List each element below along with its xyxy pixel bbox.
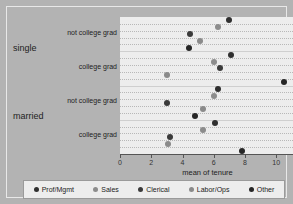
gridline	[120, 44, 293, 45]
data-point	[211, 59, 217, 65]
x-axis-tick-label: 8	[243, 159, 247, 166]
gridline	[120, 133, 293, 134]
data-point	[167, 134, 173, 140]
data-point	[281, 79, 287, 85]
data-point	[215, 24, 221, 30]
gridline	[120, 72, 293, 73]
data-point	[226, 17, 232, 23]
x-axis-tick-label: 10	[272, 159, 280, 166]
legend-item[interactable]: Prof/Mgmt	[34, 186, 74, 193]
graph-region: single married not college grad college …	[6, 6, 287, 198]
gridline	[120, 127, 293, 128]
data-point	[200, 127, 206, 133]
data-point	[200, 106, 206, 112]
legend-item[interactable]: Labor/Ops	[189, 186, 230, 193]
legend-item-label: Other	[257, 186, 275, 193]
y-category-label-married-notcollegegrad: not college grad	[67, 97, 117, 104]
data-point	[164, 100, 170, 106]
data-point	[197, 38, 203, 44]
legend-marker-icon	[34, 187, 39, 192]
y-group-label-single: single	[13, 43, 37, 53]
gridline	[120, 31, 293, 32]
data-point	[212, 120, 218, 126]
gridline	[120, 58, 293, 59]
x-axis-title: mean of tenure	[120, 168, 293, 177]
data-point	[215, 86, 221, 92]
data-point	[211, 93, 217, 99]
data-point	[217, 65, 223, 71]
x-axis-tick-label: 2	[149, 159, 153, 166]
y-category-label-married-collegegrad: college grad	[79, 131, 117, 138]
x-axis-tick-label: 4	[181, 159, 185, 166]
x-axis-tick-label: 0	[118, 159, 122, 166]
gridline	[120, 24, 293, 25]
legend-item-label: Labor/Ops	[197, 186, 230, 193]
x-axis-tick	[120, 154, 121, 158]
y-axis-labels: single married not college grad college …	[7, 17, 117, 154]
gridline	[120, 147, 293, 148]
gridline	[120, 38, 293, 39]
y-category-label-single-notcollegegrad: not college grad	[67, 29, 117, 36]
legend-item[interactable]: Sales	[93, 186, 119, 193]
x-axis-tick-label: 6	[212, 159, 216, 166]
gridline	[120, 113, 293, 114]
gridline	[120, 99, 293, 100]
data-point	[164, 72, 170, 78]
gridline	[120, 106, 293, 107]
legend: Prof/MgmtSalesClericalLabor/OpsOther	[23, 180, 285, 199]
data-point	[239, 148, 245, 154]
x-axis-tick	[183, 154, 184, 158]
x-axis-tick	[214, 154, 215, 158]
legend-marker-icon	[93, 187, 98, 192]
data-point	[165, 141, 171, 147]
x-axis-tick	[151, 154, 152, 158]
gridline	[120, 120, 293, 121]
gridline	[120, 92, 293, 93]
x-axis: 0246810	[120, 154, 293, 155]
gridline	[120, 86, 293, 87]
plot-area	[120, 17, 293, 154]
x-axis-tick	[276, 154, 277, 158]
gridline	[120, 51, 293, 52]
legend-item-label: Clerical	[146, 186, 169, 193]
gridline	[120, 140, 293, 141]
gridline	[120, 79, 293, 80]
legend-item-label: Sales	[101, 186, 119, 193]
legend-marker-icon	[189, 187, 194, 192]
data-point	[192, 113, 198, 119]
data-point	[186, 45, 192, 51]
legend-item[interactable]: Other	[249, 186, 275, 193]
y-group-label-married: married	[13, 111, 44, 121]
x-axis-tick	[245, 154, 246, 158]
chart-window: single married not college grad college …	[0, 0, 293, 204]
legend-item-label: Prof/Mgmt	[42, 186, 74, 193]
data-point	[187, 31, 193, 37]
data-point	[228, 52, 234, 58]
gridline	[120, 65, 293, 66]
legend-marker-icon	[138, 187, 143, 192]
legend-item[interactable]: Clerical	[138, 186, 169, 193]
y-category-label-single-collegegrad: college grad	[79, 63, 117, 70]
legend-marker-icon	[249, 187, 254, 192]
